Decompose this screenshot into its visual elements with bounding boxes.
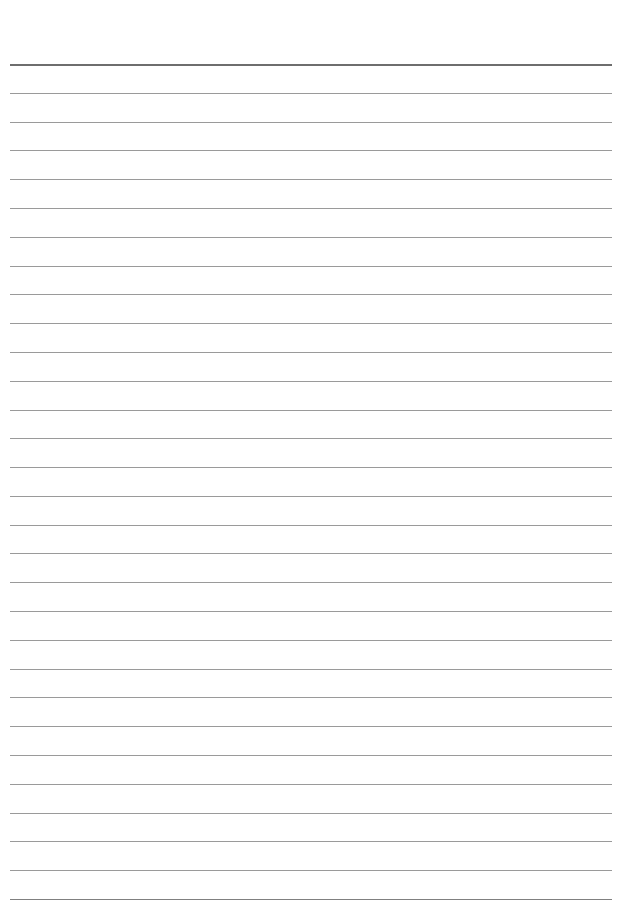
ruled-line	[10, 179, 612, 180]
ruled-line	[10, 266, 612, 267]
ruled-line	[10, 208, 612, 209]
ruled-line	[10, 352, 612, 353]
ruled-line	[10, 841, 612, 842]
ruled-line	[10, 640, 612, 641]
ruled-line	[10, 525, 612, 526]
ruled-line	[10, 410, 612, 411]
ruled-line	[10, 755, 612, 756]
ruled-line	[10, 93, 612, 94]
ruled-line	[10, 582, 612, 583]
ruled-line	[10, 323, 612, 324]
ruled-line	[10, 150, 612, 151]
ruled-line	[10, 553, 612, 554]
ruled-line	[10, 784, 612, 785]
ruled-line	[10, 381, 612, 382]
ruled-line	[10, 467, 612, 468]
ruled-line	[10, 611, 612, 612]
ruled-line	[10, 64, 612, 66]
ruled-line	[10, 237, 612, 238]
ruled-line	[10, 496, 612, 497]
ruled-line	[10, 697, 612, 698]
ruled-line	[10, 122, 612, 123]
ruled-line	[10, 899, 612, 900]
ruled-line	[10, 438, 612, 439]
ruled-line	[10, 726, 612, 727]
ruled-line	[10, 669, 612, 670]
ruled-line	[10, 813, 612, 814]
ruled-line	[10, 870, 612, 871]
ruled-line	[10, 294, 612, 295]
